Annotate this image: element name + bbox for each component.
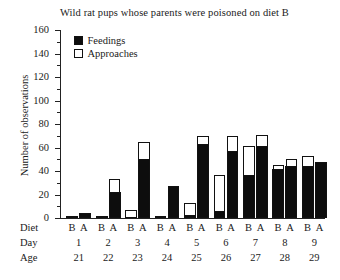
y-tick-label: 40	[39, 166, 50, 177]
x-label-day: 8	[269, 237, 301, 248]
bar-groups	[60, 30, 325, 218]
y-tick-label: 100	[33, 95, 49, 106]
bar-segment-feedings	[302, 166, 314, 218]
bar-group	[123, 30, 152, 218]
y-tick-label: 60	[39, 142, 50, 153]
x-label-day: 7	[239, 237, 271, 248]
bar-diet-a	[109, 179, 121, 218]
x-label-diet: B A	[63, 222, 95, 233]
x-label-diet: B A	[122, 222, 154, 233]
x-label-age: 23	[122, 252, 154, 263]
bar-segment-feedings	[285, 166, 297, 218]
x-label-day: 2	[92, 237, 124, 248]
bar-group	[241, 30, 270, 218]
y-tick-label: 20	[39, 189, 50, 200]
x-label-day: 4	[151, 237, 183, 248]
bar-group	[152, 30, 181, 218]
bar-segment-feedings	[243, 175, 255, 218]
x-label-age: 28	[269, 252, 301, 263]
bar-group	[93, 30, 122, 218]
x-label-age: 25	[181, 252, 213, 263]
x-label-diet: B A	[269, 222, 301, 233]
bar-segment-feedings	[168, 186, 180, 218]
y-tick-major: 0	[55, 218, 60, 219]
bar-diet-b	[125, 210, 137, 218]
x-label-diet: B A	[181, 222, 213, 233]
bar-group	[211, 30, 240, 218]
bar-diet-a	[138, 142, 150, 218]
bar-segment-feedings	[315, 162, 327, 218]
x-label-day: 5	[181, 237, 213, 248]
row-label-day: Day	[20, 237, 38, 248]
bar-segment-feedings	[197, 144, 209, 218]
bar-group	[64, 30, 93, 218]
bar-diet-b	[155, 216, 167, 218]
y-tick-label: 120	[33, 72, 49, 83]
bar-group	[300, 30, 329, 218]
x-label-age: 24	[151, 252, 183, 263]
x-label-diet: B A	[92, 222, 124, 233]
bar-diet-b	[243, 146, 255, 218]
bar-group	[270, 30, 299, 218]
bar-diet-b	[184, 203, 196, 218]
bar-segment-feedings	[109, 192, 121, 218]
bar-diet-a	[79, 213, 91, 218]
x-label-age: 29	[298, 252, 330, 263]
row-day: Day 123456789	[0, 237, 340, 252]
x-label-age: 26	[210, 252, 242, 263]
y-tick-label: 80	[39, 119, 50, 130]
x-label-diet: B A	[151, 222, 183, 233]
bar-diet-a	[227, 136, 239, 218]
chart-container: Wild rat pups whose parents were poisone…	[0, 0, 340, 280]
y-axis-label: Number of observations	[19, 46, 30, 206]
bar-diet-a	[256, 135, 268, 218]
row-age: Age 212223242526272829	[0, 252, 340, 267]
x-label-age: 27	[239, 252, 271, 263]
y-tick-label: 160	[33, 25, 49, 36]
x-axis-line	[60, 218, 325, 219]
x-label-day: 3	[122, 237, 154, 248]
bar-diet-a	[315, 162, 327, 218]
bar-diet-a	[197, 136, 209, 218]
row-label-age: Age	[20, 252, 38, 263]
x-label-day: 9	[298, 237, 330, 248]
bar-segment-feedings	[79, 213, 91, 218]
bar-segment-feedings	[256, 146, 268, 218]
bar-diet-b	[273, 165, 285, 218]
bar-segment-feedings	[214, 211, 226, 218]
bar-segment-feedings	[138, 159, 150, 218]
bar-segment-feedings	[96, 216, 108, 218]
x-label-day: 6	[210, 237, 242, 248]
bar-diet-b	[96, 216, 108, 218]
x-label-diet: B A	[239, 222, 271, 233]
bar-segment-feedings	[227, 151, 239, 218]
plot-area: 020406080100120140160 Feedings Approache…	[60, 30, 325, 218]
bar-diet-b	[302, 156, 314, 218]
x-label-age: 22	[92, 252, 124, 263]
row-label-diet: Diet	[20, 222, 38, 233]
bar-segment-feedings	[272, 169, 284, 218]
bar-diet-b	[214, 175, 226, 218]
bar-diet-a	[286, 159, 298, 218]
x-label-age: 21	[63, 252, 95, 263]
x-axis-label-table: Diet B AB AB AB AB AB AB AB AB A Day 123…	[0, 222, 340, 267]
x-label-diet: B A	[298, 222, 330, 233]
chart-title: Wild rat pups whose parents were poisone…	[60, 7, 289, 18]
row-diet: Diet B AB AB AB AB AB AB AB AB A	[0, 222, 340, 237]
bar-segment-feedings	[184, 215, 196, 219]
x-label-diet: B A	[210, 222, 242, 233]
bar-group	[182, 30, 211, 218]
bar-diet-b	[66, 216, 78, 218]
y-tick-label: 140	[33, 48, 49, 59]
x-label-day: 1	[63, 237, 95, 248]
bar-diet-a	[168, 186, 180, 218]
